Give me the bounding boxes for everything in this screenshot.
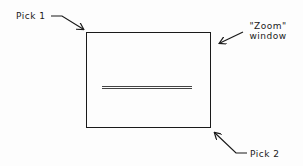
- zoom-window-arrow-icon: [220, 32, 243, 43]
- pick-1-arrow-icon: [51, 16, 83, 29]
- pick-2-arrow-icon: [215, 133, 247, 153]
- annotation-arrows: [0, 0, 303, 166]
